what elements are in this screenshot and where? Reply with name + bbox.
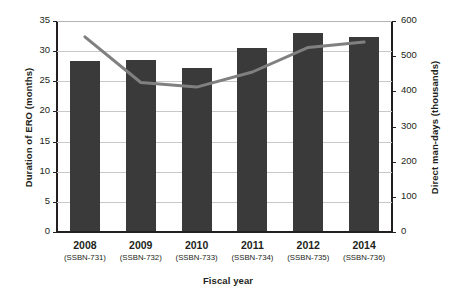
x-axis-category-year: 2008: [57, 239, 113, 252]
plot-area: 05101520253035 0100200300400500600: [57, 21, 392, 232]
bar: [293, 33, 323, 231]
x-axis-category-hull-number: (SSBN-733): [169, 252, 225, 263]
y-axis-left-tick-label: 15: [39, 135, 50, 146]
y-axis-right-tick-label: 600: [401, 14, 417, 25]
x-axis-category-hull-number: (SSBN-731): [57, 252, 113, 263]
x-axis-category-hull-number: (SSBN-736): [336, 252, 392, 263]
y-axis-left-tick-label: 20: [39, 104, 50, 115]
x-axis-category-year: 2014: [336, 239, 392, 252]
x-axis-category-label: 2009(SSBN-732): [113, 239, 169, 263]
x-axis-category-label: 2008(SSBN-731): [57, 239, 113, 263]
x-axis-category-year: 2011: [225, 239, 281, 252]
gridline: [57, 51, 392, 52]
gridline: [57, 111, 392, 112]
y-axis-left-tick-label: 35: [39, 14, 50, 25]
y-axis-left-title: Duration of ERO (months): [23, 48, 34, 208]
x-axis-title: Fiscal year: [0, 275, 456, 286]
gridline: [57, 202, 392, 203]
y-axis-left-tick-mark: [53, 142, 57, 143]
bar: [349, 37, 379, 231]
x-axis-category-year: 2009: [113, 239, 169, 252]
y-axis-right-title: Direct man-days (thousands): [429, 42, 440, 214]
y-axis-left-tick-mark: [53, 21, 57, 22]
x-axis-category-year: 2012: [280, 239, 336, 252]
y-axis-left-tick-label: 0: [45, 225, 50, 236]
y-axis-right-tick-label: 200: [401, 155, 417, 166]
y-axis-left-tick-label: 25: [39, 74, 50, 85]
y-axis-right-tick-label: 500: [401, 49, 417, 60]
x-axis-category-hull-number: (SSBN-732): [113, 252, 169, 263]
bar: [182, 68, 212, 231]
y-axis-left-tick-label: 10: [39, 165, 50, 176]
gridline: [57, 81, 392, 82]
y-axis-right-tick-mark: [392, 56, 396, 57]
y-axis-left-tick-mark: [53, 51, 57, 52]
y-axis-right-tick-label: 0: [401, 225, 406, 236]
y-axis-right-tick-label: 400: [401, 84, 417, 95]
x-axis-category-hull-number: (SSBN-735): [280, 252, 336, 263]
bar: [237, 48, 267, 231]
x-axis-category-label: 2010(SSBN-733): [169, 239, 225, 263]
y-axis-left-tick-label: 30: [39, 44, 50, 55]
x-axis-category-label: 2012(SSBN-735): [280, 239, 336, 263]
ero-duration-man-days-chart: Duration of ERO (months) Direct man-days…: [0, 0, 456, 295]
x-axis-category-label: 2014(SSBN-736): [336, 239, 392, 263]
y-axis-left-tick-mark: [53, 202, 57, 203]
y-axis-right-tick-mark: [392, 21, 396, 22]
gridline: [57, 172, 392, 173]
y-axis-left-tick-label: 5: [45, 195, 50, 206]
gridline: [57, 142, 392, 143]
y-axis-right-tick-mark: [392, 162, 396, 163]
y-axis-left-tick-mark: [53, 81, 57, 82]
x-axis-category-label: 2011(SSBN-734): [225, 239, 281, 263]
y-axis-right-tick-label: 100: [401, 190, 417, 201]
y-axis-right-tick-mark: [392, 232, 396, 233]
x-axis-category-year: 2010: [169, 239, 225, 252]
y-axis-right-tick-mark: [392, 127, 396, 128]
x-axis-ticks: [57, 21, 392, 46]
x-axis-spine: [56, 231, 393, 233]
y-axis-left-tick-mark: [53, 232, 57, 233]
y-axis-right-tick-label: 300: [401, 120, 417, 131]
y-axis-right-tick-mark: [392, 91, 396, 92]
gridline: [57, 21, 392, 22]
y-axis-left-tick-mark: [53, 111, 57, 112]
y-axis-left-tick-mark: [53, 172, 57, 173]
y-axis-right-tick-mark: [392, 197, 396, 198]
bar: [70, 61, 100, 231]
x-axis-category-hull-number: (SSBN-734): [225, 252, 281, 263]
bar: [126, 60, 156, 231]
line-series: [57, 21, 392, 232]
